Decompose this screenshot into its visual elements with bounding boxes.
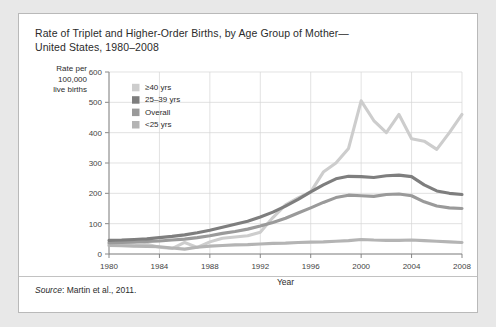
x-tick-label: 1996 xyxy=(302,262,320,271)
x-axis-title: Year xyxy=(277,277,294,287)
x-tick-label: 2008 xyxy=(453,262,471,271)
y-tick-label: 300 xyxy=(89,159,103,168)
line-chart-svg: 0100200300400500600198019841988199219962… xyxy=(19,14,479,314)
source-citation: : Martin et al., 2011. xyxy=(62,285,137,295)
legend-swatch xyxy=(132,96,140,104)
legend-label: Overall xyxy=(145,108,171,117)
x-tick-label: 1984 xyxy=(151,262,169,271)
source-note: Source: Martin et al., 2011. xyxy=(35,285,136,295)
legend-swatch xyxy=(132,84,140,92)
legend-swatch xyxy=(132,109,140,117)
legend-label: ≥40 yrs xyxy=(145,83,171,92)
y-tick-label: 200 xyxy=(89,189,103,198)
source-label: Source xyxy=(35,285,62,295)
x-tick-label: 2000 xyxy=(352,262,370,271)
footer-divider xyxy=(19,276,477,277)
x-tick-label: 1992 xyxy=(251,262,269,271)
series-line xyxy=(109,175,462,240)
y-tick-label: 100 xyxy=(89,220,103,229)
x-tick-label: 1980 xyxy=(100,262,118,271)
legend-label: <25 yrs xyxy=(145,120,171,129)
legend-label: 25–39 yrs xyxy=(145,95,180,104)
series-line xyxy=(109,194,462,243)
legend-swatch xyxy=(132,121,140,129)
y-tick-label: 500 xyxy=(89,98,103,107)
y-tick-label: 600 xyxy=(89,68,103,77)
x-tick-label: 2004 xyxy=(403,262,421,271)
y-tick-label: 400 xyxy=(89,129,103,138)
chart-card: Rate of Triplet and Higher-Order Births,… xyxy=(18,13,478,313)
y-tick-label: 0 xyxy=(98,250,103,259)
x-tick-label: 1988 xyxy=(201,262,219,271)
chart-plot-area: 0100200300400500600198019841988199219962… xyxy=(19,14,479,314)
